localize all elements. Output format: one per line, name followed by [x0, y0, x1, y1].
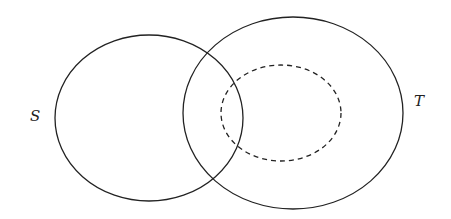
- set-s-ellipse: [55, 35, 243, 201]
- dashed-subset-ellipse: [221, 65, 341, 161]
- set-t-ellipse: [183, 17, 403, 209]
- venn-diagram: S T: [0, 0, 451, 219]
- set-t-label: T: [414, 92, 425, 110]
- set-s-label: S: [30, 107, 40, 125]
